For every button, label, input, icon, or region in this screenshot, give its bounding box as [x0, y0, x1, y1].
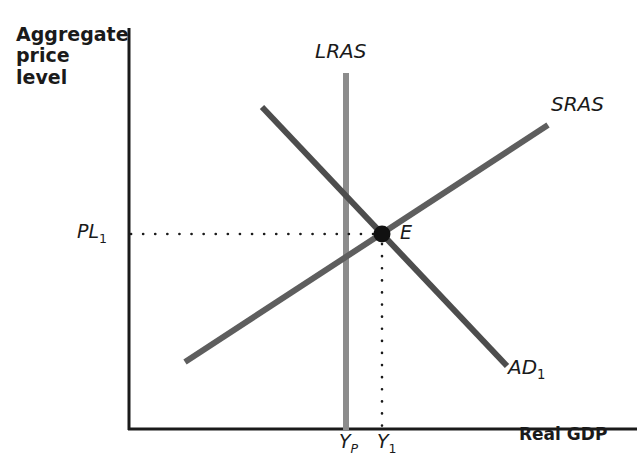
- pl1-label-text: PL: [77, 220, 99, 242]
- y1-tick-label: Y1: [377, 431, 397, 456]
- ad1-label-text: AD: [508, 355, 537, 379]
- y-axis-title-line3: level: [16, 67, 146, 88]
- y1-label-subscript: 1: [389, 441, 397, 456]
- y-axis-title-line1: Aggregate: [16, 23, 129, 45]
- yp-label-subscript: P: [351, 441, 359, 456]
- ad1-curve-label: AD1: [508, 356, 545, 383]
- ad-as-diagram: Aggregate price level Real GDP LRAS SRAS…: [0, 0, 642, 461]
- sras-curve: [185, 125, 548, 362]
- sras-curve-label: SRAS: [551, 93, 604, 115]
- lras-curve-label: LRAS: [315, 40, 366, 62]
- pl1-label-subscript: 1: [99, 231, 107, 246]
- equilibrium-label: E: [400, 222, 412, 243]
- y-axis-title: Aggregate price level: [16, 24, 146, 88]
- yp-tick-label: YP: [339, 431, 358, 456]
- equilibrium-point-e: [374, 226, 391, 243]
- yp-label-text: Y: [339, 430, 351, 452]
- y-axis-title-line2: price: [16, 45, 146, 66]
- x-axis-title: Real GDP: [519, 425, 607, 444]
- ad1-label-subscript: 1: [537, 367, 545, 382]
- pl1-axis-label: PL1: [77, 221, 107, 246]
- y1-label-text: Y: [377, 430, 389, 452]
